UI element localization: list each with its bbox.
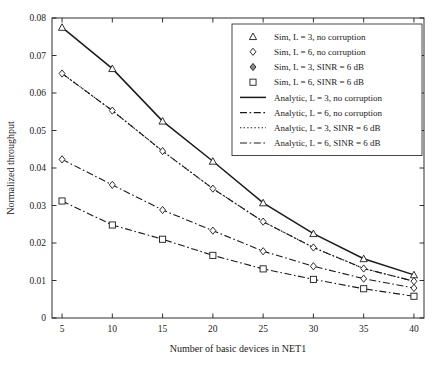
data-point-marker xyxy=(210,185,216,192)
data-point-marker xyxy=(59,70,65,77)
data-point-marker xyxy=(310,276,316,282)
legend-box xyxy=(232,24,422,156)
x-tick-label: 20 xyxy=(208,324,218,334)
legend-label: Sim, L = 6, SINR = 6 dB xyxy=(274,77,364,87)
y-tick-label: 0.01 xyxy=(29,276,46,286)
data-point-marker xyxy=(160,236,166,242)
legend-label: Sim, L = 3, SINR = 6 dB xyxy=(274,62,364,72)
legend: Sim, L = 3, no corruptionSim, L = 6, no … xyxy=(232,24,422,156)
y-tick-label: 0.03 xyxy=(29,201,46,211)
data-point-marker xyxy=(59,198,65,204)
data-point-marker xyxy=(310,230,317,237)
data-point-marker xyxy=(360,255,367,262)
data-point-marker xyxy=(310,244,316,251)
y-tick-label: 0.05 xyxy=(29,126,46,136)
data-point-marker xyxy=(160,206,166,213)
data-point-marker xyxy=(361,275,367,282)
data-point-marker xyxy=(109,107,115,114)
x-tick-label: 35 xyxy=(359,324,369,334)
x-tick-label: 25 xyxy=(258,324,268,334)
data-point-marker xyxy=(411,284,417,291)
y-tick-label: 0.04 xyxy=(29,163,46,173)
legend-label: Analytic, L = 3, SINR = 6 dB xyxy=(274,123,381,133)
data-point-marker xyxy=(58,24,65,31)
legend-label: Sim, L = 3, no corruption xyxy=(274,32,366,42)
data-point-marker xyxy=(361,265,367,272)
x-tick-label: 40 xyxy=(409,324,419,334)
data-point-marker xyxy=(210,252,216,258)
chart-plot-area: 510152025303540 00.010.020.030.040.050.0… xyxy=(0,0,439,379)
data-point-marker xyxy=(109,222,115,228)
y-tick-label: 0.02 xyxy=(29,238,46,248)
x-tick-label: 10 xyxy=(108,324,118,334)
data-point-marker xyxy=(260,218,266,225)
legend-label: Analytic, L = 6, no corruption xyxy=(274,108,382,118)
y-tick-label: 0.07 xyxy=(29,51,46,61)
data-point-marker xyxy=(59,156,65,163)
data-point-marker xyxy=(160,148,166,155)
data-point-marker xyxy=(310,263,316,270)
y-axis-label: Normalized throughput xyxy=(5,121,16,215)
legend-label: Analytic, L = 3, no corruption xyxy=(274,93,382,103)
legend-label: Sim, L = 6, no corruption xyxy=(274,47,366,57)
y-tick-label: 0.06 xyxy=(29,88,46,98)
x-axis-label: Number of basic devices in NET1 xyxy=(170,343,306,354)
y-tick-label: 0.08 xyxy=(29,13,46,23)
x-tick-label: 5 xyxy=(60,324,65,334)
data-point-marker xyxy=(260,266,266,272)
data-point-marker xyxy=(250,79,256,85)
chart-figure: 510152025303540 00.010.020.030.040.050.0… xyxy=(0,0,439,379)
x-tick-label: 15 xyxy=(158,324,168,334)
x-tick-label: 30 xyxy=(309,324,319,334)
data-point-marker xyxy=(361,286,367,292)
data-point-marker xyxy=(411,293,417,299)
data-point-marker xyxy=(210,227,216,234)
data-point-marker xyxy=(109,181,115,188)
y-tick-label: 0 xyxy=(41,313,46,323)
legend-label: Analytic, L = 6, SINR = 6 dB xyxy=(274,138,381,148)
data-point-marker xyxy=(260,248,266,255)
series-line xyxy=(62,201,414,296)
